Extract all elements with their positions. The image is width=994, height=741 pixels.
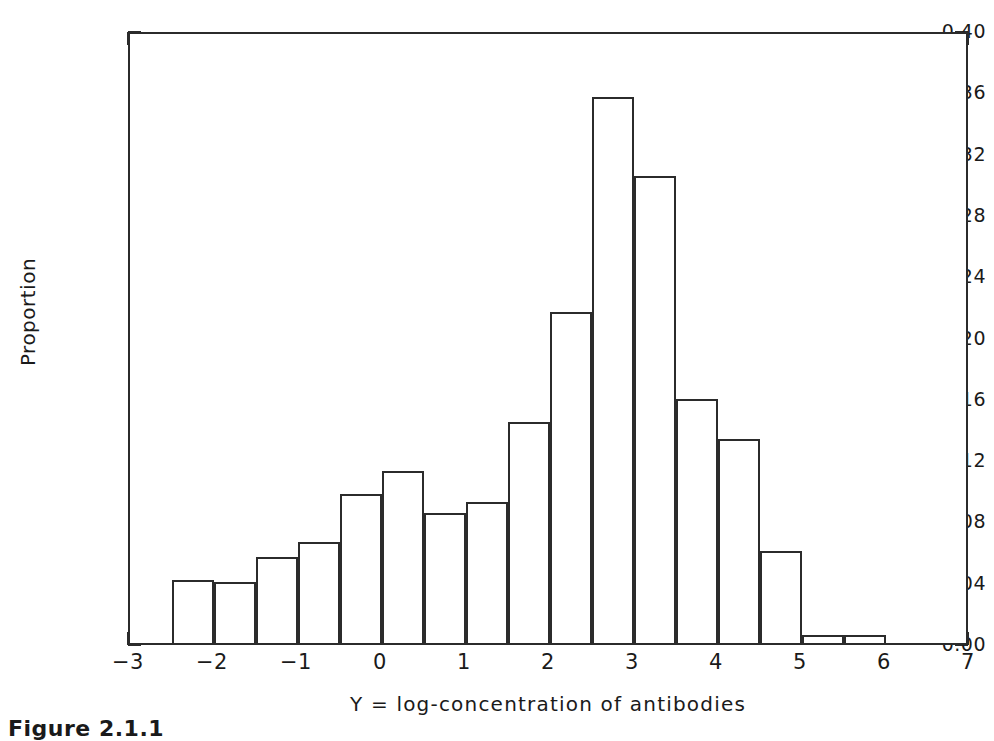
x-axis-title: Y = log-concentration of antibodies bbox=[128, 692, 968, 716]
histogram-bar bbox=[550, 312, 592, 643]
histogram-bar bbox=[592, 97, 634, 643]
x-axis-tick-label: 6 bbox=[854, 652, 914, 673]
histogram-bar bbox=[718, 439, 760, 643]
x-axis-tick-label: 0 bbox=[350, 652, 410, 673]
x-axis-tick-label: 4 bbox=[686, 652, 746, 673]
y-axis-title: Proportion bbox=[16, 222, 40, 402]
histogram-bar bbox=[802, 635, 844, 643]
histogram-bar bbox=[676, 399, 718, 643]
histogram-bar bbox=[298, 542, 340, 643]
histogram-bar bbox=[760, 551, 802, 643]
histogram-bar bbox=[424, 513, 466, 643]
x-axis-tick-label: 2 bbox=[518, 652, 578, 673]
histogram-bar bbox=[340, 494, 382, 643]
x-axis-tick-label: −2 bbox=[182, 652, 242, 673]
x-axis-tick-label: 1 bbox=[434, 652, 494, 673]
x-axis-tick-label: 3 bbox=[602, 652, 662, 673]
histogram-bars-container bbox=[130, 34, 966, 643]
histogram-bar bbox=[466, 502, 508, 643]
x-axis-tick-label: 5 bbox=[770, 652, 830, 673]
histogram-bar bbox=[256, 557, 298, 643]
x-axis-tick-label: 7 bbox=[938, 652, 994, 673]
histogram-bar bbox=[844, 635, 886, 643]
plot-frame bbox=[128, 32, 968, 645]
x-axis-tick-label: −1 bbox=[266, 652, 326, 673]
x-axis-tick-label: −3 bbox=[98, 652, 158, 673]
histogram-bar bbox=[382, 471, 424, 643]
histogram-bar bbox=[634, 176, 676, 643]
histogram-bar bbox=[172, 580, 214, 643]
figure-caption: Figure 2.1.1 bbox=[8, 716, 164, 741]
histogram-bar bbox=[214, 582, 256, 643]
histogram-bar bbox=[508, 422, 550, 643]
